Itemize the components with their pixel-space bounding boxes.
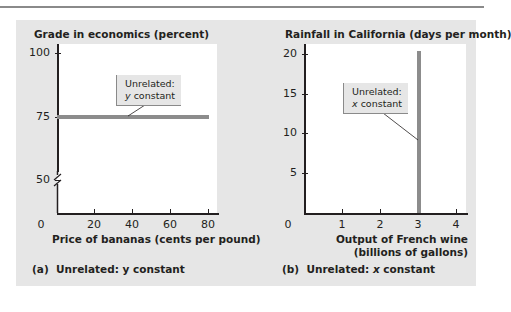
chart-b-callout-line2: x constant — [352, 98, 402, 110]
chart-b-caption-label: (b) — [282, 263, 299, 275]
chart-b-callout: Unrelated: x constant — [343, 83, 408, 114]
chart-b-caption-suffix: constant — [380, 263, 435, 275]
chart-b-callout-rest: constant — [358, 98, 402, 109]
chart-b-caption-prefix: Unrelated: — [306, 263, 373, 275]
chart-b-caption: (b) Unrelated: x constant — [282, 263, 435, 275]
chart-b-caption-var: x — [373, 263, 380, 275]
chart-b-callout-line1: Unrelated: — [352, 86, 402, 98]
